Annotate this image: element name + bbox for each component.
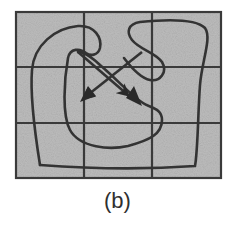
figure-caption: (b) (0, 188, 235, 214)
diagram-figure: (b) (0, 0, 235, 234)
grid-background (16, 12, 221, 178)
